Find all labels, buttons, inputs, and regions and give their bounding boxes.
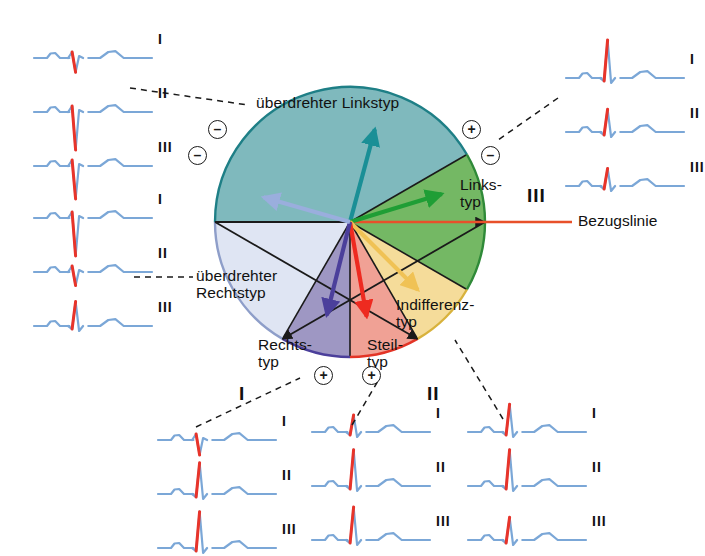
leader-ueberdrehter-linkstyp xyxy=(130,88,248,105)
ecg-lead-label-I: I xyxy=(282,414,287,429)
ecg-lead-label-I: I xyxy=(690,52,695,67)
ecg-lead-label-I: I xyxy=(158,32,163,47)
label-indifferenztyp-line1: Indifferenz- xyxy=(396,297,474,314)
polarity-sign: – xyxy=(214,122,222,136)
polarity-marker-minus-mid-left: – xyxy=(188,146,207,165)
ecg-lead-label-II: II xyxy=(158,86,168,101)
ecg-lead-label-II: II xyxy=(592,460,602,475)
ecg-lead-label-I: I xyxy=(158,192,163,207)
roman-right: III xyxy=(527,186,546,207)
label-rechtstyp-line2: typ xyxy=(258,354,312,371)
polarity-marker-minus-mid-right: – xyxy=(481,146,500,165)
leader-indifferenztyp xyxy=(455,340,503,419)
label-rechtstyp-line1: Rechts- xyxy=(258,337,312,354)
ecg-lead-label-II: II xyxy=(690,106,700,121)
roman-bottom-right: II xyxy=(427,384,440,405)
ecg-lead-label-III: III xyxy=(158,140,173,155)
ecg-lead-label-II: II xyxy=(436,460,446,475)
polarity-sign: + xyxy=(367,368,375,382)
leader-steiltyp xyxy=(352,381,378,425)
ecg-lead-label-III: III xyxy=(282,522,297,537)
polarity-marker-plus-top-right: + xyxy=(462,120,481,139)
label-linkstyp-line2: typ xyxy=(460,194,502,211)
label-indifferenztyp: Indifferenz- typ xyxy=(396,297,474,330)
polarity-sign: – xyxy=(194,148,202,162)
label-indifferenztyp-line2: typ xyxy=(396,314,474,331)
label-ueberdrehter-linkstyp: überdrehter Linkstyp xyxy=(256,95,399,112)
label-ueberdrehter-rechtstyp-line2: Rechtstyp xyxy=(196,285,277,302)
ecg-lead-label-I: I xyxy=(436,406,441,421)
polarity-sign: – xyxy=(487,148,495,162)
label-ueberdrehter-rechtstyp: überdrehter Rechtstyp xyxy=(196,268,277,301)
ecg-lead-label-II: II xyxy=(158,246,168,261)
ecg-lead-label-III: III xyxy=(436,514,451,529)
ecg-lead-label-III: III xyxy=(690,160,705,175)
label-linkstyp: Links- typ xyxy=(460,177,502,210)
polarity-marker-minus-top-left: – xyxy=(208,120,227,139)
polarity-sign: + xyxy=(467,122,475,136)
label-bezugslinie: Bezugslinie xyxy=(578,213,657,230)
label-steiltyp-line1: Steil- xyxy=(367,337,403,354)
label-rechtstyp: Rechts- typ xyxy=(258,337,312,370)
polarity-marker-plus-bottom-right: + xyxy=(362,366,381,385)
roman-bottom-left: I xyxy=(239,384,245,405)
ecg-lead-label-III: III xyxy=(592,514,607,529)
ecg-lead-label-II: II xyxy=(282,468,292,483)
polarity-marker-plus-bottom-left: + xyxy=(314,366,333,385)
leader-linkstyp xyxy=(498,98,558,140)
ecg-lead-label-III: III xyxy=(158,300,173,315)
label-ueberdrehter-rechtstyp-line1: überdrehter xyxy=(196,268,277,285)
ecg-lead-label-I: I xyxy=(592,406,597,421)
label-linkstyp-line1: Links- xyxy=(460,177,502,194)
polarity-sign: + xyxy=(319,368,327,382)
